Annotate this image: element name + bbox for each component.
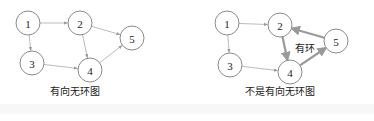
- edge-2-to-5: [92, 26, 120, 34]
- node-label: 5: [333, 36, 339, 48]
- diagram-canvas: 1234512345 有向无环图不是有向无环图有环: [0, 0, 374, 121]
- edge-5-to-2-cycle: [292, 28, 324, 37]
- node-2: 2: [268, 13, 292, 37]
- node-label: 1: [25, 18, 31, 30]
- edge-3-to-4: [242, 66, 278, 70]
- edge-4-to-5: [100, 46, 123, 63]
- node-5: 5: [120, 26, 144, 50]
- cycle-label: 有环: [295, 42, 315, 54]
- node-2: 2: [68, 11, 92, 35]
- node-3: 3: [20, 51, 44, 75]
- edge-1-to-3: [29, 35, 31, 51]
- node-label: 4: [87, 65, 93, 77]
- node-label: 3: [227, 60, 233, 72]
- node-label: 2: [77, 18, 83, 30]
- node-1: 1: [215, 11, 239, 35]
- node-label: 3: [29, 58, 35, 70]
- edge-3-to-4: [44, 64, 78, 68]
- edge-2-to-4: [82, 35, 87, 58]
- node-5: 5: [324, 29, 348, 53]
- node-label: 5: [129, 33, 135, 45]
- node-label: 1: [224, 18, 230, 30]
- node-3: 3: [218, 53, 242, 77]
- caption-not-dag: 不是有向无环图: [245, 85, 315, 97]
- edge-1-to-3: [228, 35, 229, 53]
- node-4: 4: [78, 58, 102, 82]
- node-label: 4: [287, 67, 293, 79]
- node-4: 4: [278, 60, 302, 84]
- edge-2-to-4-cycle: [282, 37, 287, 60]
- node-label: 2: [277, 20, 283, 32]
- node-1: 1: [16, 11, 40, 35]
- caption-dag: 有向无环图: [50, 85, 100, 97]
- edge-1-to-2: [239, 23, 268, 24]
